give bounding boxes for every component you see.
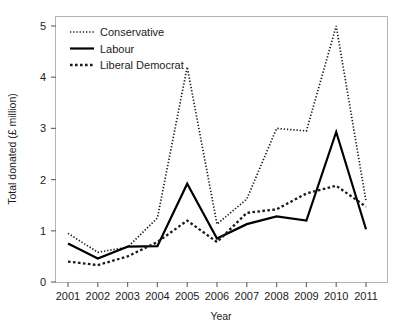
y-tick-label: 4 bbox=[40, 71, 46, 83]
x-axis-ticks: 2001200220032004200520062007200820092010… bbox=[56, 282, 378, 302]
x-tick-label: 2009 bbox=[294, 290, 318, 302]
x-tick-label: 2007 bbox=[235, 290, 259, 302]
y-tick-label: 1 bbox=[40, 225, 46, 237]
x-tick-label: 2006 bbox=[205, 290, 229, 302]
x-tick-label: 2004 bbox=[145, 290, 169, 302]
legend-label-liberal-democrat: Liberal Democrat bbox=[100, 59, 184, 71]
x-tick-label: 2003 bbox=[115, 290, 139, 302]
line-chart: 012345 200120022003200420052006200720082… bbox=[0, 0, 402, 327]
y-tick-label: 2 bbox=[40, 174, 46, 186]
x-tick-label: 2010 bbox=[324, 290, 348, 302]
x-tick-label: 2001 bbox=[56, 290, 80, 302]
chart-figure: 012345 200120022003200420052006200720082… bbox=[0, 0, 402, 327]
plot-area-frame bbox=[56, 17, 388, 283]
x-axis-title: Year bbox=[210, 310, 232, 322]
y-tick-label: 0 bbox=[40, 276, 46, 288]
legend-label-conservative: Conservative bbox=[100, 26, 164, 38]
y-axis-ticks: 012345 bbox=[40, 20, 56, 288]
y-axis-title: Total donated (£ million) bbox=[6, 93, 18, 204]
x-tick-label: 2011 bbox=[354, 290, 378, 302]
y-tick-label: 3 bbox=[40, 122, 46, 134]
x-tick-label: 2005 bbox=[175, 290, 199, 302]
y-tick-label: 5 bbox=[40, 20, 46, 32]
legend-label-labour: Labour bbox=[100, 43, 135, 55]
x-tick-label: 2002 bbox=[86, 290, 110, 302]
x-tick-label: 2008 bbox=[264, 290, 288, 302]
